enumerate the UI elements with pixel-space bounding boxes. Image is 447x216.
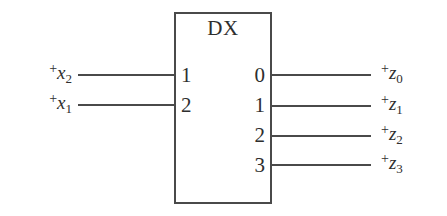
output-signal-label-z3: +z3	[381, 152, 403, 175]
signal-subscript: 1	[396, 102, 403, 117]
input-signal-label-x2: +x2	[0, 62, 72, 85]
output-port-number-0: 0	[245, 65, 265, 86]
input-wire-1	[78, 74, 175, 76]
logic-block-diagram: DX 1 2 0 1 2 3 +x2 +x1 +z0 +z1 +z2 +z3	[0, 0, 447, 216]
output-port-number-3: 3	[245, 155, 265, 176]
output-signal-label-z0: +z0	[381, 62, 403, 85]
signal-subscript: 1	[66, 101, 73, 116]
output-signal-label-z2: +z2	[381, 123, 403, 146]
output-wire-2	[271, 135, 371, 137]
signal-variable: x	[57, 62, 65, 83]
output-port-number-2: 2	[245, 125, 265, 146]
input-port-number-2: 2	[181, 95, 192, 116]
plus-sign: +	[381, 122, 389, 137]
plus-sign: +	[49, 61, 57, 76]
plus-sign: +	[49, 91, 57, 106]
output-port-number-1: 1	[245, 95, 265, 116]
signal-subscript: 3	[396, 161, 403, 176]
output-wire-3	[271, 164, 371, 166]
input-port-number-1: 1	[181, 65, 192, 86]
signal-variable: x	[57, 92, 65, 113]
plus-sign: +	[381, 61, 389, 76]
signal-subscript: 2	[396, 132, 403, 147]
output-wire-0	[271, 74, 371, 76]
signal-subscript: 0	[396, 71, 403, 86]
signal-subscript: 2	[66, 71, 73, 86]
plus-sign: +	[381, 92, 389, 107]
output-signal-label-z1: +z1	[381, 93, 403, 116]
output-wire-1	[271, 105, 371, 107]
input-wire-2	[78, 104, 175, 106]
plus-sign: +	[381, 151, 389, 166]
input-signal-label-x1: +x1	[0, 92, 72, 115]
dx-block-title: DX	[174, 16, 272, 41]
